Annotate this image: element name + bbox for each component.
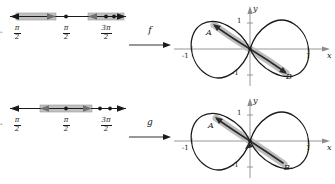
y-tick-label-one: 1 [237,17,241,25]
figure-canvas: - π 2 π 2 3π 2 [0,0,335,184]
y-axis-arrow [247,98,252,106]
figure-eight-graphic-g [166,92,335,184]
tick-dot-half-pi [64,107,68,111]
fraction: 3π 2 [101,117,112,134]
fraction-denominator: 2 [63,126,70,133]
x-tick-label-minus-one: -1 [182,52,189,60]
fraction-denominator: 2 [101,126,112,133]
fraction-denominator: 2 [101,34,112,41]
domain-numberline-g: - π 2 π 2 3π 2 [0,92,132,184]
figure-eight-plot-g: x y -1 1 1 -1 A B [166,92,335,184]
y-tick-label-minus-one: -1 [232,161,239,169]
tick-dot-minus-half-pi [15,15,19,19]
y-axis-label: y [253,96,258,105]
origin-point [248,47,252,51]
fraction: π 2 [14,117,21,134]
fraction-numerator: 3π [101,25,112,32]
tick-label-three-half-pi: 3π 2 [93,25,119,42]
tick-dot-half-pi [64,15,68,19]
fraction: π 2 [63,25,70,42]
arrowhead-left [10,105,19,111]
fraction-numerator: π [14,117,21,124]
y-tick-label-one: 1 [237,109,241,117]
fraction-denominator: 2 [14,34,21,41]
tick-label-minus-half-pi: - π 2 [4,25,30,42]
fraction-numerator: π [63,117,70,124]
fraction-denominator: 2 [14,126,21,133]
point-label-a: A [208,121,214,130]
x-tick-label-one: 1 [306,144,310,152]
fraction-numerator: 3π [101,117,112,124]
tick-label-three-half-pi: 3π 2 [93,117,119,134]
panel-f: - π 2 π 2 3π 2 [0,0,335,92]
y-tick-label-minus-one: -1 [232,69,239,77]
origin-point [248,139,252,143]
x-tick-label-one: 1 [306,52,310,60]
fraction-numerator: π [14,25,21,32]
fraction: π 2 [14,25,21,42]
domain-numberline-f: - π 2 π 2 3π 2 [0,0,132,92]
tick-label-half-pi: π 2 [53,117,79,134]
tick-dot-mid [98,107,102,111]
panel-g: - π 2 π 2 3π 2 [0,92,335,184]
tick-dot-three-half-pi [104,15,108,19]
arrowhead-right [117,105,126,111]
tick-dot-three-half-pi [108,107,112,111]
y-axis-arrow [247,6,252,14]
point-label-b: B [286,72,292,81]
x-tick-label-minus-one: -1 [182,144,189,152]
figure-eight-plot-f: x y -1 1 1 -1 A B [166,0,335,92]
y-axis-label: y [253,4,258,13]
fraction-numerator: π [63,25,70,32]
point-label-a: A [206,28,212,37]
tick-dot-extra [112,15,116,19]
x-axis-label: x [327,143,332,152]
fraction: 3π 2 [101,25,112,42]
minus-sign: - [0,29,2,36]
x-axis-label: x [327,51,332,60]
point-label-b: B [284,163,290,172]
fraction: π 2 [63,117,70,134]
figure-eight-graphic-f [166,0,335,92]
minus-sign: - [0,121,2,128]
fraction-denominator: 2 [63,34,70,41]
tick-label-half-pi: π 2 [53,25,79,42]
tick-label-minus-half-pi: - π 2 [4,117,30,134]
